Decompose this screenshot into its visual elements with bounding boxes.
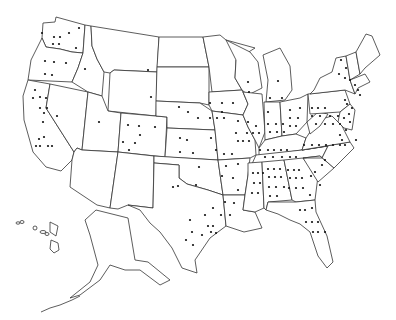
dot-marker (220, 214, 222, 216)
dot-marker (279, 168, 281, 170)
dot-marker (332, 123, 334, 125)
dot-marker (43, 112, 45, 114)
dot-marker (192, 152, 194, 154)
dot-marker (255, 125, 257, 127)
dot-marker (262, 172, 264, 174)
dot-marker (179, 137, 181, 139)
dot-marker (299, 209, 301, 211)
dot-marker (201, 234, 203, 236)
state-montana (91, 26, 159, 73)
dot-marker (337, 115, 339, 117)
dot-marker (319, 115, 321, 117)
dot-marker (179, 151, 181, 153)
dot-marker (349, 79, 351, 81)
dot-marker (47, 145, 49, 147)
dot-marker (65, 62, 67, 64)
dot-marker (150, 96, 152, 98)
dot-marker (338, 73, 340, 75)
dot-marker (209, 102, 211, 104)
us-map (0, 0, 396, 320)
dot-marker (289, 177, 291, 179)
dot-marker (253, 182, 255, 184)
dot-marker (309, 194, 311, 196)
dot-marker (210, 231, 212, 233)
dot-marker (53, 36, 55, 38)
dot-marker (237, 163, 239, 165)
dot-marker (298, 169, 300, 171)
dot-marker (215, 149, 217, 151)
dot-marker (314, 171, 316, 173)
dot-marker (343, 117, 345, 119)
dot-marker (295, 187, 297, 189)
dot-marker (187, 111, 189, 113)
dot-marker (269, 131, 271, 133)
state-south-dakota (156, 67, 209, 105)
state-hawaii (50, 222, 58, 236)
state-shapes (23, 17, 380, 298)
dot-marker (276, 131, 278, 133)
dot-marker (191, 231, 193, 233)
dot-marker (303, 144, 305, 146)
dot-marker (185, 239, 187, 241)
dot-marker (41, 32, 43, 34)
dot-marker (324, 231, 326, 233)
dot-marker (318, 144, 320, 146)
dot-marker (311, 107, 313, 109)
dot-marker (269, 195, 271, 197)
dot-marker (44, 60, 46, 62)
dot-marker (349, 121, 351, 123)
dot-marker (295, 156, 297, 158)
dot-marker (277, 80, 279, 82)
dot-marker (281, 156, 283, 158)
dot-marker (289, 156, 291, 158)
dot-marker (258, 132, 260, 134)
dot-marker (289, 117, 291, 119)
dot-marker (273, 168, 275, 170)
dot-marker (210, 137, 212, 139)
dot-marker (348, 113, 350, 115)
dot-marker (178, 106, 180, 108)
dot-marker (324, 159, 326, 161)
dot-marker (51, 145, 53, 147)
dot-marker (209, 117, 211, 119)
dot-marker (354, 84, 356, 86)
dot-marker (39, 145, 41, 147)
dot-marker (78, 27, 80, 29)
dot-marker (339, 134, 341, 136)
dot-marker (68, 32, 70, 34)
dot-marker (248, 140, 250, 142)
dot-marker (305, 221, 307, 223)
dot-marker (192, 244, 194, 246)
dot-marker (45, 97, 47, 99)
dot-marker (197, 117, 199, 119)
dot-marker (139, 134, 141, 136)
dot-marker (58, 43, 60, 45)
dot-marker (339, 144, 341, 146)
dot-marker (42, 121, 44, 123)
dot-marker (186, 139, 188, 141)
dot-marker (147, 69, 149, 71)
dot-marker (332, 144, 334, 146)
dot-marker (286, 149, 288, 151)
dot-marker (252, 132, 254, 134)
dot-marker (231, 153, 233, 155)
dot-marker (39, 107, 41, 109)
dot-marker (259, 149, 261, 151)
dot-marker (324, 107, 326, 109)
dot-marker (344, 99, 346, 101)
state-north-dakota (157, 37, 209, 67)
dot-marker (302, 187, 304, 189)
dot-marker (235, 132, 237, 134)
dot-marker (299, 107, 301, 109)
dot-marker (295, 125, 297, 127)
dot-marker (127, 124, 129, 126)
dot-marker (268, 186, 270, 188)
dot-marker (346, 103, 348, 105)
dot-marker (223, 153, 225, 155)
dot-marker (275, 123, 277, 125)
dot-marker (59, 36, 61, 38)
dot-marker (293, 169, 295, 171)
dot-marker (225, 165, 227, 167)
dot-marker (39, 96, 41, 98)
dot-marker (233, 202, 235, 204)
